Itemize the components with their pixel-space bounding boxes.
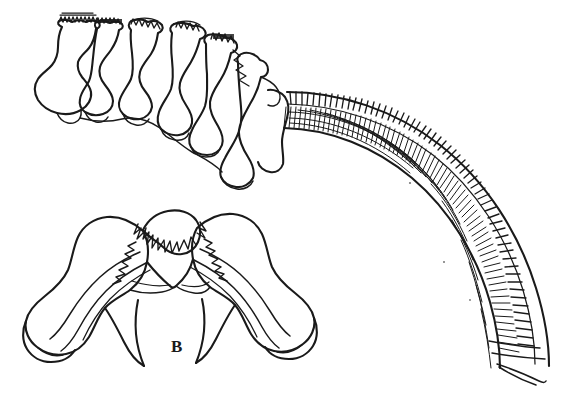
vertebra-6: [220, 53, 288, 189]
vertebrae-series-group: [35, 13, 288, 189]
arc-crest-segments: [290, 92, 534, 346]
vertebra-anterior-view-group: [23, 210, 317, 366]
vertebra-1: [35, 13, 100, 123]
figure-illustration: [0, 0, 583, 393]
arc-terminus-4: [499, 367, 536, 385]
figure-label-b: B: [171, 338, 183, 355]
vertebral-base-contour: [80, 118, 222, 172]
anatomical-figure: B: [0, 0, 583, 393]
transverse-process-left: [23, 217, 150, 366]
vertebra-4: [158, 21, 206, 140]
hatched-curved-arc: [284, 92, 549, 385]
vertebra-3: [119, 18, 163, 125]
